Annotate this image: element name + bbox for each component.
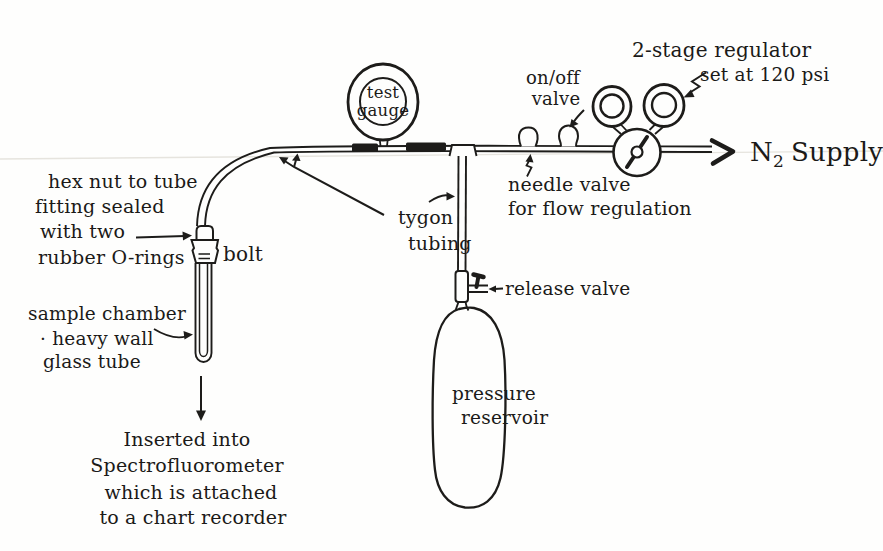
regulator-gauge-right (644, 85, 684, 127)
two-stage-regulator (593, 85, 684, 177)
hex-nut-label-line4: rubber O-rings (38, 246, 185, 268)
glass-tube-outer (196, 263, 212, 362)
test-gauge-label-line2: gauge (357, 101, 409, 120)
on-off-label-line1: on/off (526, 67, 581, 88)
regulator-label-line2: set at 120 psi (700, 64, 829, 85)
regulator-gauge-left (593, 87, 631, 127)
hex-nut-label-line2: fitting sealed (35, 195, 165, 217)
apparatus-diagram: test gauge (0, 0, 883, 551)
release-valve (456, 271, 489, 302)
test-gauge-label-line1: test (367, 83, 399, 102)
tygon-label-line1: tygon (398, 206, 453, 228)
needle-valve-label-line2: for flow regulation (508, 197, 692, 219)
hex-nut-label-line1: hex nut to tube (48, 170, 198, 192)
hex-nut-cap (197, 226, 214, 240)
scanned-diagram-page: test gauge (0, 0, 883, 551)
sample-chamber-label-line2: · heavy wall (40, 328, 154, 349)
needle-valve (519, 128, 538, 147)
reservoir-label-line1: pressure (452, 383, 536, 404)
on-off-label-line2: valve (531, 88, 580, 109)
regulator-label-line1: 2-stage regulator (632, 38, 811, 62)
tube-connector-right (406, 143, 446, 152)
hex-nut-label-line3: with two (40, 220, 125, 242)
on-off-valve (559, 126, 578, 147)
tube-connector-left (352, 144, 378, 153)
inserted-label-line3: which is attached (105, 481, 278, 503)
sample-chamber-assembly (192, 226, 219, 362)
inserted-label-line1: Inserted into (124, 428, 251, 450)
hex-bolt (192, 240, 219, 263)
sample-chamber-label-line1: sample chamber (28, 303, 186, 324)
release-valve-label: release valve (505, 278, 630, 299)
sample-chamber-label-line3: glass tube (43, 351, 141, 372)
inserted-label-line2: Spectrofluorometer (90, 454, 284, 476)
tee-fitting (450, 145, 477, 156)
n2-supply-label: N2Supply (750, 137, 883, 171)
needle-valve-label-line1: needle valve (508, 173, 631, 195)
reservoir-label-line2: reservoir (461, 407, 548, 428)
inserted-label-line4: to a chart recorder (99, 506, 287, 528)
glass-tube-inner (200, 263, 208, 357)
tygon-label-line2: tubing (408, 232, 472, 254)
vertical-tube (458, 156, 466, 272)
test-gauge: test gauge (348, 64, 418, 146)
bolt-label: bolt (223, 242, 263, 266)
regulator-valve-knob (632, 147, 643, 158)
